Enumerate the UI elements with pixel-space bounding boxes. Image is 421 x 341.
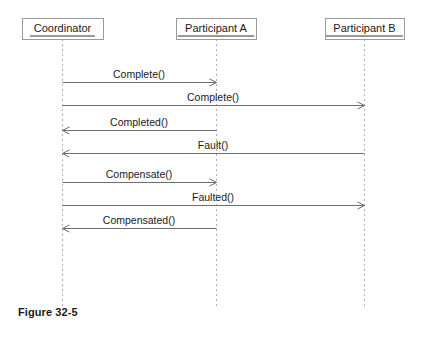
- message-2[interactable]: Complete(): [63, 91, 365, 110]
- message-1[interactable]: Complete(): [63, 68, 217, 87]
- message-4[interactable]: Fault(): [63, 139, 365, 158]
- sequence-diagram: CoordinatorParticipant AParticipant BCom…: [0, 0, 421, 341]
- lifeline-label-coordinator: Coordinator: [34, 22, 92, 34]
- lifeline-label-participant-a: Participant A: [185, 22, 247, 34]
- message-label-6: Faulted(): [192, 191, 234, 203]
- message-7[interactable]: Compensated(): [63, 214, 217, 233]
- message-label-7: Compensated(): [103, 214, 175, 226]
- figure-caption: Figure 32-5: [18, 306, 78, 318]
- message-label-4: Fault(): [198, 139, 228, 151]
- lifeline-participant-a: Participant A: [177, 19, 257, 309]
- message-label-2: Complete(): [187, 91, 239, 103]
- message-3[interactable]: Completed(): [63, 116, 217, 135]
- lifeline-participant-b: Participant B: [326, 19, 405, 309]
- message-label-1: Complete(): [113, 68, 165, 80]
- message-5[interactable]: Compensate(): [63, 168, 217, 187]
- lifeline-label-participant-b: Participant B: [333, 22, 395, 34]
- message-label-5: Compensate(): [106, 168, 173, 180]
- lifeline-coordinator: Coordinator: [23, 19, 104, 309]
- sequence-diagram-canvas: CoordinatorParticipant AParticipant BCom…: [0, 0, 421, 341]
- message-label-3: Completed(): [110, 116, 168, 128]
- message-6[interactable]: Faulted(): [63, 191, 365, 210]
